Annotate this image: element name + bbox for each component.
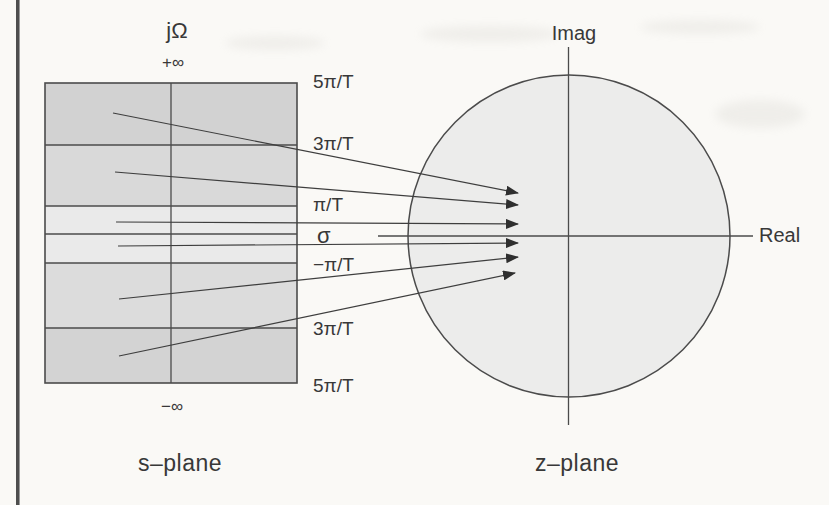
freq-labels: 5π/T3π/Tπ/Tσ−π/T3π/T5π/T [313, 0, 373, 505]
sigma-axis-label: σ [317, 223, 331, 249]
freq-label: π/T [313, 194, 343, 216]
freq-label: 3π/T [313, 133, 354, 155]
freq-label: 3π/T [313, 318, 354, 340]
splane-caption: s–plane [100, 450, 260, 477]
freq-label: 5π/T [313, 71, 354, 93]
plus-infinity-label: +∞ [133, 53, 213, 73]
freq-label: −π/T [313, 254, 354, 276]
scanned-figure: jΩ +∞ −∞ 5π/T3π/Tπ/Tσ−π/T3π/T5π/T Imag R… [0, 0, 829, 505]
imag-axis-label: Imag [514, 22, 634, 45]
minus-infinity-label: −∞ [132, 397, 212, 417]
splane-zplane-diagram [0, 0, 829, 505]
jomega-axis-label: jΩ [137, 18, 217, 44]
zplane-caption: z–plane [497, 450, 657, 477]
real-axis-label: Real [759, 224, 800, 247]
freq-label: 5π/T [313, 375, 354, 397]
